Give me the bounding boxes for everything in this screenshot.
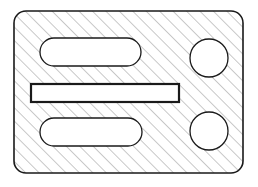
middle-slot-cutout — [31, 84, 179, 102]
top-hole-cutout — [190, 39, 228, 77]
technical-drawing-svg — [0, 0, 258, 187]
technical-drawing-canvas — [0, 0, 258, 187]
top-slot-cutout — [40, 38, 141, 66]
bottom-slot-cutout — [40, 118, 142, 146]
bottom-hole-cutout — [190, 112, 228, 150]
